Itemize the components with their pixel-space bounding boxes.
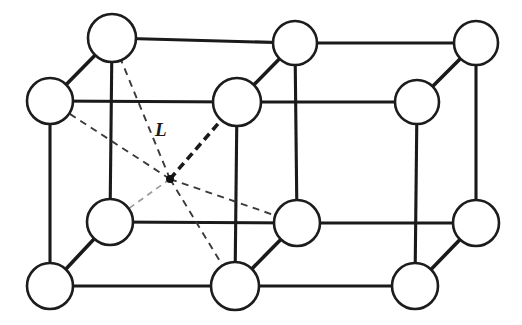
atom-front-top-left	[27, 78, 73, 124]
atom-back-bottom-right	[453, 200, 499, 246]
atom-front-top-right	[395, 80, 439, 124]
atom-front-bottom-mid	[211, 262, 259, 310]
bond-layer	[50, 38, 476, 286]
atom-front-bottom-right	[392, 263, 438, 309]
lattice-bond	[110, 38, 112, 222]
atom-back-bottom-mid	[274, 200, 320, 246]
atom-back-top-mid	[273, 21, 317, 65]
atom-back-top-right	[454, 21, 498, 65]
lattice-bond	[235, 102, 237, 286]
atom-layer	[27, 14, 499, 310]
lattice-bond	[50, 101, 237, 102]
distance-label-L: L	[154, 119, 167, 140]
lattice-diagram-svg: L	[0, 0, 522, 325]
atom-front-top-mid	[213, 78, 261, 126]
lattice-bond	[295, 43, 297, 223]
lattice-bond	[112, 38, 295, 43]
interstitial-site-dot	[166, 175, 174, 183]
atom-back-bottom-left	[87, 199, 133, 245]
lattice-bond	[415, 102, 417, 286]
lattice-figure: L	[0, 0, 522, 325]
atom-front-bottom-left	[27, 263, 73, 309]
lattice-bond	[110, 222, 297, 223]
atom-back-top-left	[88, 14, 136, 62]
